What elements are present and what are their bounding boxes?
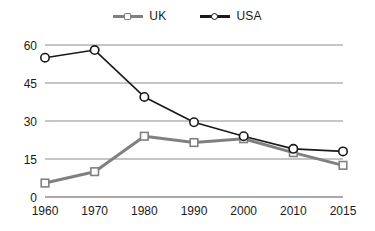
data-point-usa-2000[interactable]: [239, 132, 247, 140]
data-point-uk-1960[interactable]: [41, 179, 49, 187]
data-point-uk-1980[interactable]: [141, 132, 149, 140]
series-markers: [41, 46, 347, 187]
y-axis-tick-label: 45: [24, 77, 38, 91]
y-axis-tick-labels: 015304560: [24, 39, 38, 205]
data-point-uk-1970[interactable]: [91, 168, 99, 176]
data-point-usa-1960[interactable]: [41, 53, 49, 61]
data-point-usa-1980[interactable]: [140, 93, 148, 101]
x-axis-tick-label: 2015: [330, 204, 357, 218]
y-axis-tick-label: 0: [30, 191, 37, 205]
x-axis-tick-label: 1960: [32, 204, 59, 218]
data-point-usa-2015[interactable]: [339, 147, 347, 155]
line-chart: UK USA 015304560 19601970198019902000201…: [0, 0, 375, 231]
y-axis-tick-label: 60: [24, 39, 38, 53]
data-point-uk-2015[interactable]: [339, 162, 347, 170]
series-lines: [45, 50, 343, 183]
y-axis-tick-label: 30: [24, 115, 38, 129]
x-axis-tick-label: 2000: [230, 204, 257, 218]
x-axis-tick-label: 1980: [131, 204, 158, 218]
series-line-usa: [45, 50, 343, 151]
data-point-usa-1970[interactable]: [90, 46, 98, 54]
plot-area: 015304560 1960197019801990200020102015: [0, 0, 375, 231]
x-axis-tick-label: 1970: [81, 204, 108, 218]
data-point-uk-1990[interactable]: [190, 139, 198, 147]
x-axis-tick-label: 2010: [280, 204, 307, 218]
data-point-usa-1990[interactable]: [190, 118, 198, 126]
data-point-usa-2010[interactable]: [289, 145, 297, 153]
x-axis-tick-label: 1990: [181, 204, 208, 218]
y-axis-tick-label: 15: [24, 153, 38, 167]
x-axis-tick-labels: 1960197019801990200020102015: [32, 204, 357, 218]
